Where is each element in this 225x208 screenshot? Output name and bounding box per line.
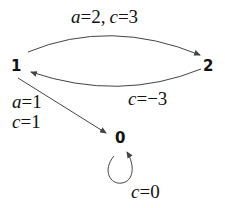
- edge-0-self-loop: [108, 152, 132, 183]
- edge-label-1-to-0-a: a=1: [12, 91, 42, 112]
- edge-label-2-to-1: c=−3: [128, 88, 167, 109]
- edge-label-1-to-2: a=2,c=3: [71, 6, 138, 27]
- node-0: 0: [115, 129, 125, 147]
- edge-1-to-2: [28, 36, 200, 55]
- edge-2-to-1: [31, 69, 201, 86]
- state-diagram: 1 2 0 a=2,c=3 c=−3 a=1 c=1 c=0: [0, 0, 225, 208]
- node-1: 1: [11, 57, 21, 75]
- edge-label-1-to-0-c: c=1: [12, 111, 41, 132]
- node-2: 2: [203, 57, 213, 75]
- edge-label-0-self: c=0: [131, 181, 160, 202]
